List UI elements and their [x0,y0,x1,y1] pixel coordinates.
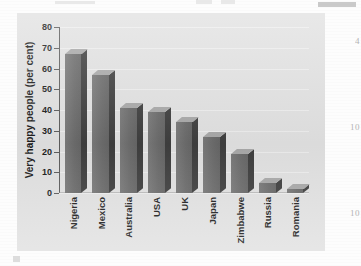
y-axis-tick [54,193,59,194]
bar-side-face [165,107,171,193]
y-axis-tick-label: 50 [42,84,52,94]
scanned-page: 4 10 10 Very happy people (per cent) 010… [0,0,361,266]
category-label-romania: Romania [290,197,301,237]
category-label-mexico: Mexico [95,197,106,229]
scan-artifact-top-middle [196,0,212,4]
scan-artifact-bottom-left [13,256,20,262]
bar-side-face [220,132,226,193]
bar-series [59,27,309,193]
category-label-slot: Nigeria [65,193,82,253]
y-axis-tick-label: 20 [42,147,52,157]
category-label-nigeria: Nigeria [67,197,78,229]
bar-zimbabwe [231,154,248,193]
bar-side-face [248,149,254,193]
category-label-slot: USA [148,193,165,253]
y-axis-tick-label: 40 [42,105,52,115]
bar-japan [203,137,220,193]
y-axis-tick-label: 60 [42,64,52,74]
bar-side-face [81,49,87,193]
scan-artifact-top-middle-secondary [221,0,235,4]
bar-front-face [65,54,82,193]
bar-front-face [148,112,165,193]
plot-area: 01020304050607080 NigeriaMexicoAustralia… [59,27,309,193]
bar-mexico [92,75,109,193]
y-axis-tick-label: 30 [42,126,52,136]
y-axis-tick-label: 0 [47,188,52,198]
bar-usa [148,112,165,193]
bar-australia [120,108,137,193]
category-label-slot: Australia [120,193,137,253]
category-label-russia: Russia [262,197,273,228]
y-axis-title: Very happy people (per cent) [24,42,35,179]
scan-artifact-top-left [55,1,95,4]
category-label-australia: Australia [123,197,134,238]
margin-page-fragment-b: 10 [350,122,360,132]
y-axis-tick-label: 10 [42,167,52,177]
bar-side-face [137,103,143,193]
bar-front-face [259,183,276,193]
bar-uk [176,122,193,193]
margin-page-fragment-a: 4 [355,36,360,46]
y-axis-tick-label: 70 [42,43,52,53]
category-label-uk: UK [178,197,189,211]
bar-side-face [192,118,198,193]
bar-front-face [120,108,137,193]
scan-artifact-top-right [318,2,356,7]
bar-front-face [92,75,109,193]
category-label-usa: USA [151,197,162,217]
bar-side-face [109,70,115,193]
y-axis-tick-label: 80 [42,22,52,32]
category-label-slot: UK [176,193,193,253]
category-label-zimbabwe: Zimbabwe [234,197,245,243]
category-label-japan: Japan [206,197,217,224]
margin-page-fragment-c: 10 [350,208,360,218]
bar-russia [259,183,276,193]
bar-chart-panel: Very happy people (per cent) 01020304050… [17,13,325,251]
bar-front-face [176,122,193,193]
category-label-slot: Romania [287,193,304,253]
category-label-slot: Russia [259,193,276,253]
bar-front-face [231,154,248,193]
bar-nigeria [65,54,82,193]
bar-front-face [203,137,220,193]
category-label-slot: Mexico [92,193,109,253]
category-label-slot: Japan [203,193,220,253]
y-axis-title-container: Very happy people (per cent) [30,27,31,193]
category-label-slot: Zimbabwe [231,193,248,253]
